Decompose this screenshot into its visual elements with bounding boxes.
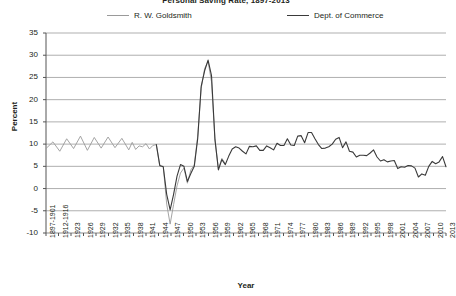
x-tick-label: 1956 [212,222,219,238]
y-tick-label: 25 [12,73,38,81]
x-tick-label: 1941 [149,222,156,238]
x-tick-label: 1998 [387,222,394,238]
series-line-goldsmith [46,61,225,224]
y-tick-label: 0 [12,185,38,193]
x-tick-label: 1983 [324,222,331,238]
x-tick-label: 1947 [174,222,181,238]
x-tick-label: 2004 [412,222,419,238]
x-tick-label: 1929 [99,222,106,238]
y-tick-label: -10 [12,229,38,237]
x-tick-label: 1923 [74,222,81,238]
x-tick-label: 1953 [199,222,206,238]
x-tick-label: 1938 [137,222,144,238]
chart-legend: R. W. Goldsmith Dept. of Commerce [0,11,452,25]
x-tick-label: 1935 [124,222,131,238]
chart-title: Personal Saving Rate, 1897-2013 [0,0,452,5]
x-tick-label: 1968 [262,222,269,238]
y-tick-label: 20 [12,96,38,104]
x-tick-label: 1944 [162,222,169,238]
y-tick-label: 15 [12,118,38,126]
x-tick-label: 1959 [224,222,231,238]
x-tick-label: 1912-1916 [62,205,69,238]
x-tick-label: 1989 [349,222,356,238]
x-tick-label: 2013 [449,222,456,238]
y-tick-label: 35 [12,29,38,37]
x-tick-label: 1897-1901 [49,205,56,238]
x-tick-label: 1965 [249,222,256,238]
x-tick-label: 1962 [237,222,244,238]
y-tick-label: 5 [12,162,38,170]
x-tick-label: 1971 [274,222,281,238]
legend-label-dept-of-commerce: Dept. of Commerce [314,11,383,20]
legend-line-swatch-dept-of-commerce [287,15,309,16]
x-tick-label: 1974 [287,222,294,238]
legend-item-goldsmith: R. W. Goldsmith [107,11,192,20]
x-tick-label: 1986 [337,222,344,238]
y-tick-label: 10 [12,140,38,148]
legend-line-swatch-goldsmith [107,15,129,16]
x-tick-label: 2010 [437,222,444,238]
x-tick-label: 2001 [399,222,406,238]
legend-label-goldsmith: R. W. Goldsmith [134,11,192,20]
x-tick-label: 1950 [187,222,194,238]
series-line-dept-of-commerce [156,60,446,210]
x-tick-label: 1992 [362,222,369,238]
x-tick-label: 1980 [312,222,319,238]
x-tick-label: 2007 [424,222,431,238]
x-tick-label: 1977 [299,222,306,238]
x-tick-label: 1932 [112,222,119,238]
legend-item-dept-of-commerce: Dept. of Commerce [287,11,383,20]
y-tick-label: 30 [12,51,38,59]
x-axis-label: Year [46,281,446,290]
x-tick-label: 1995 [374,222,381,238]
y-tick-label: -5 [12,207,38,215]
x-tick-label: 1926 [87,222,94,238]
